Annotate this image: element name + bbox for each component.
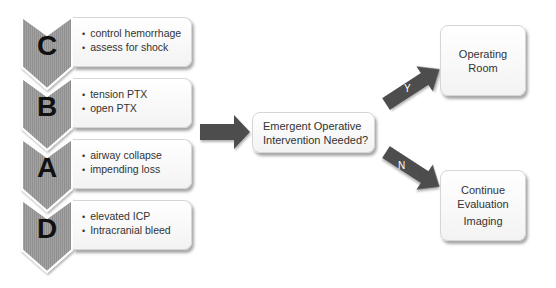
main-arrow-icon (200, 115, 250, 149)
decision-line-2: Intervention Needed? (263, 133, 368, 147)
yes-label: Y (404, 83, 411, 94)
operating-room-box: Operating Room (440, 25, 526, 96)
step-letter-b: B (22, 91, 72, 123)
step-a-list: airway collapse impending loss (82, 149, 162, 177)
decision-line-1: Emergent Operative (263, 119, 368, 133)
step-letter-a: A (22, 152, 72, 184)
list-item: tension PTX (82, 88, 147, 102)
continue-evaluation-text: Continue Evaluation Imaging (457, 183, 508, 228)
decision-text: Emergent Operative Intervention Needed? (263, 119, 368, 147)
step-letter-c: C (22, 30, 72, 62)
no-arrow-icon (378, 139, 448, 199)
list-item: control hemorrhage (82, 27, 181, 41)
outcome-line-3: Imaging (457, 214, 508, 228)
outcome-line-1: Continue (457, 183, 508, 197)
flowchart: C B A D control hemorrhage assess for sh… (0, 0, 556, 288)
step-c-list: control hemorrhage assess for shock (82, 27, 181, 55)
list-item: assess for shock (82, 41, 181, 55)
continue-evaluation-box: Continue Evaluation Imaging (440, 170, 526, 241)
step-box-c: control hemorrhage assess for shock (73, 17, 192, 67)
step-letter-d: D (22, 213, 72, 245)
step-box-b: tension PTX open PTX (73, 78, 192, 128)
decision-box: Emergent Operative Intervention Needed? (252, 112, 375, 153)
list-item: Intracranial bleed (82, 224, 171, 238)
yes-arrow-icon (378, 57, 448, 117)
no-label: N (398, 160, 405, 171)
list-item: impending loss (82, 163, 162, 177)
step-box-a: airway collapse impending loss (73, 139, 192, 189)
list-item: open PTX (82, 102, 147, 116)
outcome-line-1: Operating (459, 47, 507, 61)
outcome-line-2: Evaluation (457, 197, 508, 211)
step-d-list: elevated ICP Intracranial bleed (82, 210, 171, 238)
outcome-line-2: Room (459, 61, 507, 75)
step-b-list: tension PTX open PTX (82, 88, 147, 116)
list-item: elevated ICP (82, 210, 171, 224)
list-item: airway collapse (82, 149, 162, 163)
operating-room-text: Operating Room (459, 47, 507, 75)
step-box-d: elevated ICP Intracranial bleed (73, 200, 192, 250)
